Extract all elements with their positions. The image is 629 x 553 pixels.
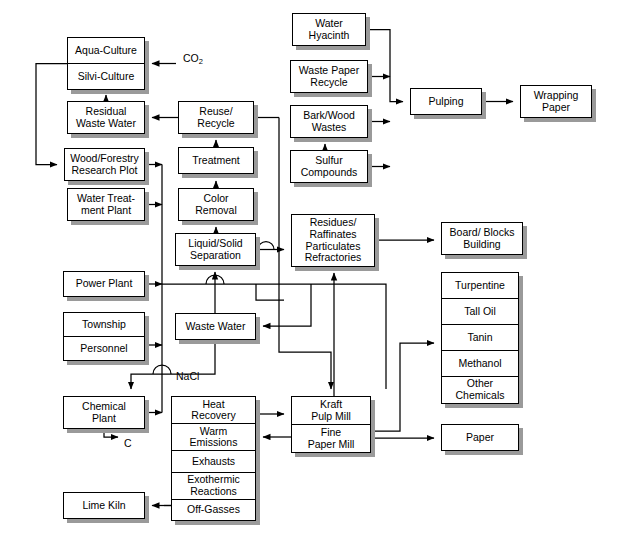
wire-bridge-nacl bbox=[153, 365, 171, 374]
edge-label-carbon: C bbox=[124, 437, 132, 449]
node-sulfur_compounds-row: Sulfur Compounds bbox=[291, 151, 367, 182]
node-chemical_plant-row: Chemical Plant bbox=[64, 397, 144, 428]
edge-kraftmill-to-chemicals bbox=[371, 343, 434, 431]
node-lime_kiln-row: Lime Kiln bbox=[64, 493, 144, 518]
node-paper-row: Paper bbox=[442, 425, 518, 450]
node-treatment[interactable]: Treatment bbox=[178, 147, 254, 174]
node-water_hyacinth-row: Water Hyacinth bbox=[293, 14, 365, 45]
node-kraft_fine_mill[interactable]: Kraft Pulp MillFine Paper Mill bbox=[291, 396, 371, 453]
node-water_treatment_plant[interactable]: Water Treat- ment Plant bbox=[67, 188, 145, 221]
edge-label-nacl: NaCl bbox=[176, 370, 199, 382]
node-wrapping_paper[interactable]: Wrapping Paper bbox=[520, 85, 592, 118]
wire-main-to-kraftmill-right bbox=[311, 284, 386, 389]
node-color_removal-row: Color Removal bbox=[179, 189, 253, 220]
node-chemicals_stack-row: Tall Oil bbox=[442, 298, 518, 324]
node-chemicals_stack[interactable]: TurpentineTall OilTaninMethanolOther Che… bbox=[441, 272, 519, 404]
node-residual_waste_water-row: Residual Waste Water bbox=[68, 102, 144, 133]
node-color_removal[interactable]: Color Removal bbox=[178, 188, 254, 221]
flow-diagram-canvas: Aqua-CultureSilvi-CultureResidual Waste … bbox=[0, 0, 629, 553]
node-heat_recovery_stack-row: Warm Emissions bbox=[172, 423, 255, 450]
node-reuse_recycle-row: Reuse/ Recycle bbox=[179, 102, 253, 133]
node-residual_waste_water[interactable]: Residual Waste Water bbox=[67, 101, 145, 134]
node-heat_recovery_stack-row: Heat Recovery bbox=[172, 397, 255, 423]
node-township_personnel-row: Township bbox=[64, 313, 144, 336]
node-board_blocks_building-row: Board/ Blocks Building bbox=[442, 223, 522, 254]
node-chemicals_stack-row: Turpentine bbox=[442, 273, 518, 298]
node-wrapping_paper-row: Wrapping Paper bbox=[521, 86, 591, 117]
node-sulfur_compounds[interactable]: Sulfur Compounds bbox=[290, 150, 368, 183]
node-chemical_plant[interactable]: Chemical Plant bbox=[63, 396, 145, 429]
edge-aquaculture-to-woodforestry bbox=[36, 64, 67, 165]
node-reuse_recycle[interactable]: Reuse/ Recycle bbox=[178, 101, 254, 134]
node-power_plant[interactable]: Power Plant bbox=[63, 271, 145, 297]
node-power_plant-row: Power Plant bbox=[64, 272, 144, 296]
node-residues_raffinates-row: Residues/ Raffinates Particulates Refrac… bbox=[292, 215, 374, 266]
node-water_treatment_plant-row: Water Treat- ment Plant bbox=[68, 189, 144, 220]
node-kraft_fine_mill-row: Fine Paper Mill bbox=[292, 424, 370, 452]
node-heat_recovery_stack-row: Exhausts bbox=[172, 450, 255, 471]
edge-returnline-to-wastewater bbox=[263, 284, 311, 326]
node-liquid_solid_separation-row: Liquid/Solid Separation bbox=[176, 234, 255, 265]
node-heat_recovery_stack-row: Off-Gasses bbox=[172, 499, 255, 520]
node-treatment-row: Treatment bbox=[179, 148, 253, 173]
node-liquid_solid_separation[interactable]: Liquid/Solid Separation bbox=[175, 233, 256, 266]
node-waste_water-row: Waste Water bbox=[176, 314, 255, 339]
wire-residues-feed bbox=[256, 284, 284, 300]
edge-chemicalplant-to-carbon bbox=[104, 429, 118, 437]
edge-label-co2-text: CO bbox=[183, 52, 199, 64]
node-water_hyacinth[interactable]: Water Hyacinth bbox=[292, 13, 366, 46]
node-aqua_silvi[interactable]: Aqua-CultureSilvi-Culture bbox=[67, 37, 145, 90]
edge-hyacinth-to-pulping bbox=[366, 30, 403, 102]
node-aqua_silvi-row: Silvi-Culture bbox=[68, 63, 144, 89]
edge-label-co2: CO2 bbox=[183, 52, 203, 64]
node-chemicals_stack-row: Tanin bbox=[442, 324, 518, 350]
node-chemicals_stack-row: Other Chemicals bbox=[442, 376, 518, 403]
node-chemicals_stack-row: Methanol bbox=[442, 350, 518, 376]
node-wood_forestry-row: Wood/Forestry Research Plot bbox=[65, 149, 144, 180]
node-paper[interactable]: Paper bbox=[441, 424, 519, 451]
node-heat_recovery_stack-row: Exothermic Reactions bbox=[172, 472, 255, 499]
node-bark_wood_wastes-row: Bark/Wood Wastes bbox=[291, 106, 367, 137]
node-pulping[interactable]: Pulping bbox=[410, 88, 482, 115]
node-waste_paper_recycle[interactable]: Waste Paper Recycle bbox=[290, 60, 368, 93]
edge-label-carbon-text: C bbox=[124, 437, 132, 449]
node-wood_forestry[interactable]: Wood/Forestry Research Plot bbox=[64, 148, 145, 181]
edge-label-nacl-text: NaCl bbox=[176, 370, 199, 382]
node-heat_recovery_stack[interactable]: Heat RecoveryWarm EmissionsExhaustsExoth… bbox=[171, 396, 256, 521]
node-board_blocks_building[interactable]: Board/ Blocks Building bbox=[441, 222, 523, 255]
node-aqua_silvi-row: Aqua-Culture bbox=[68, 38, 144, 63]
node-township_personnel-row: Personnel bbox=[64, 336, 144, 360]
wire-bridge-residues bbox=[258, 242, 274, 250]
node-waste_water[interactable]: Waste Water bbox=[175, 313, 256, 340]
wire-bridge-liquidsolid bbox=[206, 275, 224, 284]
node-pulping-row: Pulping bbox=[411, 89, 481, 114]
node-lime_kiln[interactable]: Lime Kiln bbox=[63, 492, 145, 519]
node-bark_wood_wastes[interactable]: Bark/Wood Wastes bbox=[290, 105, 368, 138]
node-residues_raffinates[interactable]: Residues/ Raffinates Particulates Refrac… bbox=[291, 214, 375, 267]
node-waste_paper_recycle-row: Waste Paper Recycle bbox=[291, 61, 367, 92]
edge-label-co2-subscript: 2 bbox=[199, 57, 203, 66]
node-township_personnel[interactable]: TownshipPersonnel bbox=[63, 312, 145, 361]
node-kraft_fine_mill-row: Kraft Pulp Mill bbox=[292, 397, 370, 424]
